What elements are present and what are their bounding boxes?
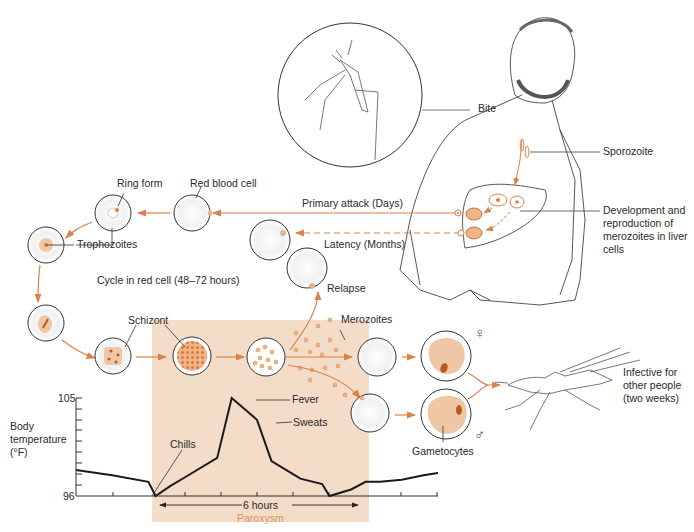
red-blood-cell-icon <box>174 195 213 231</box>
relapse-cell <box>287 248 327 289</box>
female-gametocyte <box>421 331 471 381</box>
mosquito-icon <box>495 348 640 430</box>
human-figure-icon <box>400 18 585 305</box>
bursting-cell <box>247 338 285 376</box>
red-blood-cell-label: Red blood cell <box>190 177 257 190</box>
fusion-arrow <box>468 373 500 399</box>
bite-label: Bite <box>478 102 496 115</box>
duration-label: 6 hours <box>243 499 278 512</box>
y-tick-96: 96 <box>63 490 75 503</box>
y-ticks <box>76 398 82 485</box>
female-symbol-icon: ♀ <box>474 326 485 339</box>
latency-label: Latency (Months) <box>324 238 405 251</box>
diagram-canvas <box>0 0 694 532</box>
male-gametocyte <box>421 389 471 442</box>
early-schizont-cell <box>95 338 131 374</box>
paroxysm-label: Paroxysm <box>237 512 284 525</box>
male-symbol-icon: ♂ <box>474 428 485 441</box>
trophozoites-label: Trophozoites <box>77 238 137 251</box>
chills-label: Chills <box>170 438 196 451</box>
infected-rbc-upper <box>358 338 396 376</box>
schizont-cell <box>173 337 211 375</box>
gametocytes-label: Gametocytes <box>412 445 474 458</box>
ring-form-cell <box>95 195 131 231</box>
primary-attack-arrow <box>213 210 461 216</box>
arrow <box>66 222 92 238</box>
relapse-label: Relapse <box>327 282 366 295</box>
primary-attack-label: Primary attack (Days) <box>302 197 403 210</box>
sweats-label: Sweats <box>293 416 327 429</box>
cycle-label: Cycle in red cell (48–72 hours) <box>97 274 239 287</box>
trophozoite-cell-2 <box>28 305 64 341</box>
latency-cell <box>250 220 290 260</box>
arrow <box>62 340 95 358</box>
ring-form-label: Ring form <box>117 177 163 190</box>
liver-icon <box>463 184 547 248</box>
infected-rbc-lower <box>351 394 389 432</box>
infective-label: Infective for other people (two weeks) <box>623 366 693 405</box>
merozoites-label: Merozoites <box>341 313 392 326</box>
schizont-label: Schizont <box>128 314 168 327</box>
y-tick-105: 105 <box>58 392 76 405</box>
liver-development-label: Development and reproduction of merozoit… <box>603 204 694 256</box>
latency-arrow <box>296 230 464 236</box>
arrow <box>38 265 40 302</box>
y-axis-label: Body temperature (°F) <box>10 420 72 459</box>
fever-label: Fever <box>292 393 319 406</box>
malaria-life-cycle-diagram: Bite Sporozoite Development and reproduc… <box>0 0 694 532</box>
sporozoite-label: Sporozoite <box>603 145 653 158</box>
mosquito-biting-icon <box>278 23 470 167</box>
